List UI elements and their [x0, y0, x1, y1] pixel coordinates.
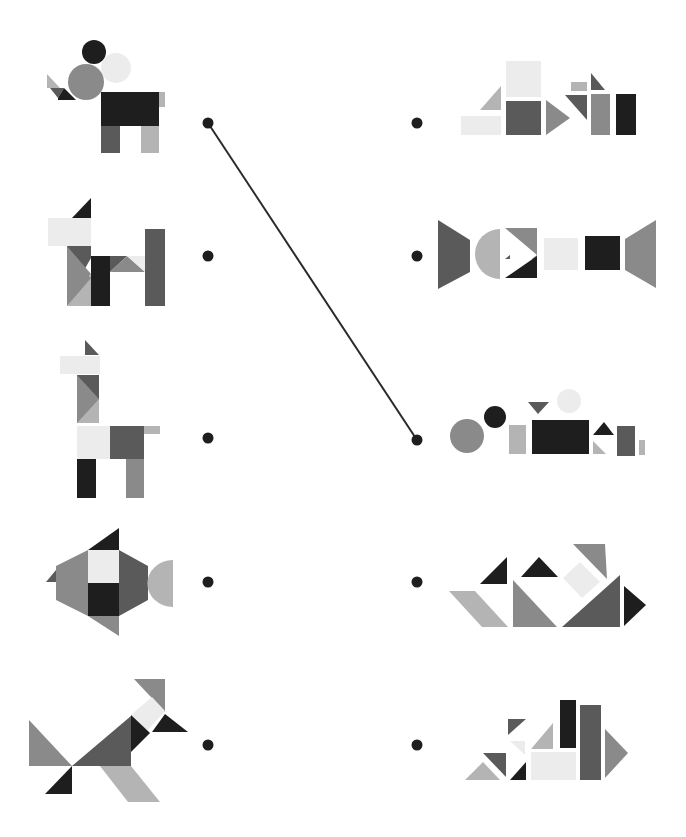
- connection-line: [208, 123, 417, 440]
- shape-set-3: [450, 389, 645, 456]
- shape-set-4: [449, 544, 646, 627]
- figure-fox: [29, 679, 188, 802]
- right-dot-set-1[interactable]: [412, 118, 423, 129]
- right-dot-set-5[interactable]: [412, 740, 423, 751]
- left-dot-fox[interactable]: [203, 740, 214, 751]
- left-dot-giraffe[interactable]: [203, 433, 214, 444]
- matching-worksheet: [0, 0, 686, 837]
- shape-set-2: [438, 220, 656, 289]
- right-dot-set-4[interactable]: [412, 577, 423, 588]
- shape-set-1: [461, 61, 636, 135]
- right-dot-set-3[interactable]: [412, 435, 423, 446]
- figure-giraffe: [60, 340, 160, 498]
- figure-fish: [46, 528, 173, 636]
- figure-elephant: [47, 40, 165, 153]
- right-dot-set-2[interactable]: [412, 251, 423, 262]
- left-dot-dog[interactable]: [203, 251, 214, 262]
- left-dot-fish[interactable]: [203, 577, 214, 588]
- left-dot-elephant[interactable]: [203, 118, 214, 129]
- figure-dog: [48, 198, 165, 306]
- shape-set-5: [465, 700, 628, 780]
